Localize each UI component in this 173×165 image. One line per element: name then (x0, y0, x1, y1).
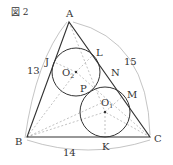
length-ab: 13 (27, 65, 40, 76)
length-ac: 15 (124, 56, 137, 67)
label-k: K (102, 141, 110, 152)
label-j: J (44, 56, 49, 67)
arc-bc (27, 140, 150, 150)
arc-ac (73, 22, 150, 135)
label-p: P (80, 83, 87, 94)
label-m: M (127, 89, 137, 100)
arc-ab (25, 22, 67, 138)
label-o2: O2 (62, 67, 74, 79)
construction-lines (27, 22, 150, 137)
label-o1: O1 (101, 97, 113, 109)
length-bc: 14 (63, 147, 76, 158)
center-o1-dot (104, 111, 106, 113)
geometry-figure: 図 2 A B C J L N M P K O2 O1 13 15 14 (0, 0, 173, 165)
label-a: A (65, 8, 74, 19)
label-b: B (15, 136, 22, 147)
figure-title: 図 2 (11, 7, 29, 17)
label-c: C (154, 133, 162, 144)
triangle-abc (27, 22, 150, 137)
label-l: L (96, 47, 103, 58)
label-n: N (111, 67, 120, 78)
center-o2-dot (75, 71, 77, 73)
